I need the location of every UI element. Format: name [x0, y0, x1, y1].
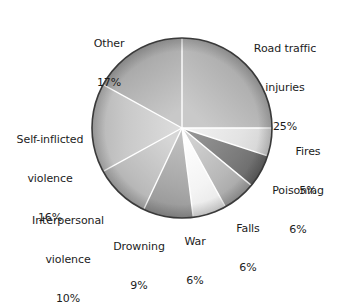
slice-label-falls: Falls 6%: [222, 196, 274, 300]
slice-label-road-traffic-injuries-name-line2: injuries: [236, 81, 334, 94]
slice-label-war: War 6%: [174, 209, 216, 306]
slice-label-war-percent: 6%: [174, 274, 216, 287]
slice-label-war-name: War: [174, 235, 216, 248]
slice-label-other-percent: 17%: [72, 76, 146, 89]
slice-label-drowning: Drowning 9%: [106, 214, 172, 306]
slice-label-drowning-percent: 9%: [106, 279, 172, 292]
slice-label-other-name: Other: [72, 37, 146, 50]
slice-label-falls-name: Falls: [222, 222, 274, 235]
slice-label-fires-name: Fires: [282, 145, 334, 158]
slice-label-self-inflicted-violence: Self-inflicted violence 16%: [4, 107, 96, 250]
slice-label-interpersonal-violence-name-line2: violence: [22, 253, 114, 266]
slice-label-self-inflicted-violence-percent: 16%: [4, 211, 96, 224]
slice-label-interpersonal-violence-percent: 10%: [22, 292, 114, 305]
slice-label-road-traffic-injuries-name-line1: Road traffic: [236, 42, 334, 55]
slice-label-falls-percent: 6%: [222, 261, 274, 274]
slice-label-drowning-name: Drowning: [106, 240, 172, 253]
slice-label-other: Other 17%: [72, 11, 146, 115]
slice-label-self-inflicted-violence-name-line2: violence: [4, 172, 96, 185]
slice-label-self-inflicted-violence-name-line1: Self-inflicted: [4, 133, 96, 146]
